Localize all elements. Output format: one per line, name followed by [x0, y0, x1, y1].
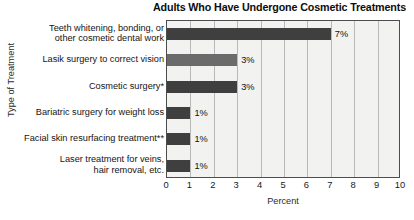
x-tick-label: 3 — [234, 179, 239, 190]
bar-value-label: 1% — [194, 161, 207, 171]
bar — [167, 160, 190, 172]
x-tick-label: 0 — [163, 179, 168, 190]
x-tick-label: 9 — [374, 179, 379, 190]
category-label: Lasik surgery to correct vision — [12, 46, 164, 72]
x-tick-label: 6 — [304, 179, 309, 190]
category-label: Cosmetic surgery* — [12, 73, 164, 99]
bar — [167, 81, 237, 93]
bar-row: 1% — [167, 126, 399, 152]
bar-value-label: 3% — [241, 55, 254, 65]
x-tick-label: 7 — [327, 179, 332, 190]
category-label: Teeth whitening, bonding, or other cosme… — [12, 20, 164, 46]
bar-row: 1% — [167, 153, 399, 179]
x-tick-label: 5 — [280, 179, 285, 190]
bar-value-label: 1% — [194, 134, 207, 144]
category-label: Laser treatment for veins, hair removal,… — [12, 152, 164, 178]
bar-row: 1% — [167, 100, 399, 126]
category-label: Bariatric surgery for weight loss — [12, 99, 164, 125]
x-axis-ticks: 012345678910 — [166, 179, 400, 193]
bar — [167, 133, 190, 145]
x-tick-label: 10 — [395, 179, 405, 190]
bar-row: 3% — [167, 74, 399, 100]
bar-row: 3% — [167, 47, 399, 73]
x-tick-label: 1 — [187, 179, 192, 190]
bar-row: 7% — [167, 21, 399, 47]
plot-area: 7%3%3%1%1%1% — [166, 20, 400, 178]
category-label-column: Teeth whitening, bonding, or other cosme… — [14, 20, 164, 178]
bar — [167, 54, 237, 66]
chart-container: Adults Who Have Undergone Cosmetic Treat… — [0, 0, 414, 220]
bar-value-label: 1% — [194, 108, 207, 118]
bar — [167, 107, 190, 119]
x-tick-label: 4 — [257, 179, 262, 190]
bar — [167, 28, 331, 40]
category-label: Facial skin resurfacing treatment** — [12, 125, 164, 151]
chart-title: Adults Who Have Undergone Cosmetic Treat… — [20, 1, 406, 13]
x-tick-label: 2 — [210, 179, 215, 190]
bar-value-label: 7% — [335, 29, 348, 39]
x-tick-label: 8 — [351, 179, 356, 190]
bar-value-label: 3% — [241, 82, 254, 92]
x-axis-title: Percent — [166, 196, 400, 206]
